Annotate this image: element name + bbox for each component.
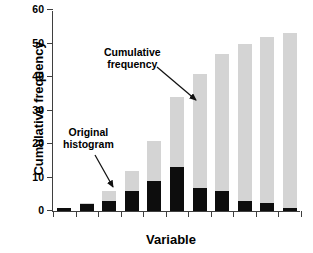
x-tick	[53, 211, 54, 217]
bar-group	[215, 10, 229, 211]
x-tick	[98, 211, 99, 217]
bar-group	[125, 10, 139, 211]
x-tick	[166, 211, 167, 217]
bar-group	[57, 10, 71, 211]
annotation-histogram-line1: Original	[63, 126, 114, 138]
y-tick-label: 40	[32, 70, 44, 82]
x-tick	[301, 211, 302, 217]
bar-group	[238, 10, 252, 211]
bar-group	[147, 10, 161, 211]
y-tick: 60	[47, 9, 53, 10]
bar-group	[260, 10, 274, 211]
bar-cumulative-frequency	[283, 33, 297, 211]
y-tick-label: 60	[32, 3, 44, 15]
annotation-histogram-line2: histogram	[63, 138, 114, 150]
bar-original-histogram	[193, 188, 207, 211]
y-tick-label: 30	[32, 104, 44, 116]
bar-original-histogram	[80, 204, 94, 211]
bar-cumulative-frequency	[215, 54, 229, 211]
x-tick	[143, 211, 144, 217]
x-tick	[76, 211, 77, 217]
bar-group	[80, 10, 94, 211]
x-tick	[211, 211, 212, 217]
bar-original-histogram	[125, 191, 139, 211]
bar-cumulative-frequency	[238, 44, 252, 212]
y-tick: 40	[47, 76, 53, 77]
y-tick-label: 0	[38, 204, 44, 216]
bar-group	[193, 10, 207, 211]
y-tick-label: 20	[32, 137, 44, 149]
bar-original-histogram	[102, 201, 116, 211]
x-tick	[278, 211, 279, 217]
annotation-cumulative-line1: Cumulative	[104, 46, 161, 58]
bar-original-histogram	[147, 181, 161, 211]
annotation-cumulative-frequency: Cumulative frequency	[104, 46, 161, 70]
bar-original-histogram	[170, 167, 184, 211]
bar-group	[102, 10, 116, 211]
x-tick	[256, 211, 257, 217]
x-tick	[188, 211, 189, 217]
y-tick: 20	[47, 143, 53, 144]
x-tick	[121, 211, 122, 217]
annotation-cumulative-line2: frequency	[104, 58, 161, 70]
chart-figure: Cumulative frequency Variable 0102030405…	[0, 0, 313, 253]
y-tick-label: 50	[32, 37, 44, 49]
y-tick: 50	[47, 43, 53, 44]
bar-original-histogram	[283, 208, 297, 211]
bar-group	[170, 10, 184, 211]
y-tick: 10	[47, 177, 53, 178]
bar-group	[283, 10, 297, 211]
bar-original-histogram	[215, 191, 229, 211]
bar-original-histogram	[260, 203, 274, 211]
y-tick-label: 10	[32, 171, 44, 183]
x-axis-title: Variable	[42, 232, 300, 247]
bar-cumulative-frequency	[260, 37, 274, 211]
plot-area: 0102030405060	[52, 11, 300, 212]
y-tick: 30	[47, 110, 53, 111]
annotation-original-histogram: Original histogram	[63, 126, 114, 150]
bar-original-histogram	[238, 201, 252, 211]
bar-original-histogram	[57, 208, 71, 211]
x-tick	[233, 211, 234, 217]
